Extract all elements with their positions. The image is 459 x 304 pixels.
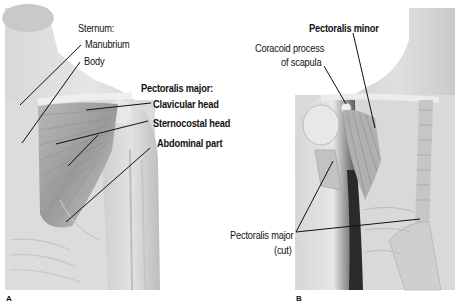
label-pectoralis-major-cut-line2: (cut) — [274, 244, 292, 256]
label-abdominal-part: Abdominal part — [157, 137, 222, 149]
label-clavicular-head: Clavicular head — [153, 98, 219, 110]
label-coracoid-process-line2: of scapula — [281, 56, 321, 68]
label-sternum-body: Body — [84, 55, 104, 67]
label-pectoralis-minor: Pectoralis minor — [309, 22, 379, 34]
label-sternocostal-head: Sternocostal head — [153, 117, 230, 129]
label-pectoralis-major-cut-line1: Pectoralis major — [230, 229, 293, 241]
label-pectoralis-major-heading: Pectoralis major: — [141, 82, 213, 94]
label-sternum: Sternum: — [78, 22, 114, 34]
panel-b-letter: B — [296, 294, 302, 303]
panel-a-letter: A — [6, 294, 12, 303]
label-coracoid-process-line1: Coracoid process — [255, 42, 324, 54]
label-manubrium: Manubrium — [85, 38, 130, 50]
